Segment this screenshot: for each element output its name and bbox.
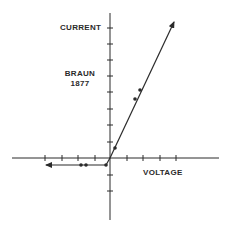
diagram-title: BRAUN 1877	[60, 69, 100, 89]
current-axis-label: CURRENT	[60, 23, 101, 33]
title-name: BRAUN	[60, 69, 100, 79]
axes	[12, 13, 219, 220]
data-point	[104, 163, 108, 167]
data-point	[113, 146, 117, 150]
forward-current-line	[110, 22, 174, 158]
data-point	[138, 88, 142, 92]
title-year: 1877	[60, 79, 100, 89]
data-point	[133, 97, 137, 101]
data-point	[79, 163, 83, 167]
iv-characteristic-diagram	[0, 0, 228, 230]
voltage-axis-label: VOLTAGE	[143, 168, 183, 178]
data-point	[84, 163, 88, 167]
